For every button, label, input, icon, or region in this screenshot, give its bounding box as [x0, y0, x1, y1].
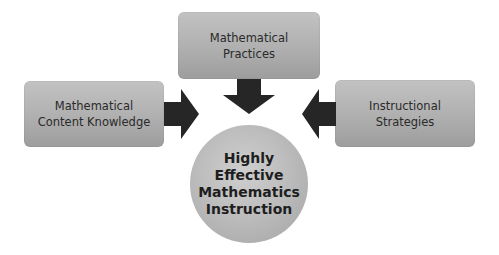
arrow-left-icon	[302, 89, 336, 139]
arrow-down-icon	[223, 79, 275, 114]
center-label-line: Highly	[224, 150, 274, 167]
center-label-line: Instruction	[206, 201, 292, 218]
box-label-line: Content Knowledge	[38, 114, 151, 130]
arrow-right-icon	[164, 89, 199, 139]
center-label-line: Effective	[215, 167, 284, 184]
box-label-line: Practices	[210, 46, 288, 62]
highly-effective-instruction-circle: Highly Effective Mathematics Instruction	[190, 125, 308, 243]
mathematical-practices-box: Mathematical Practices	[178, 12, 320, 79]
box-label-line: Mathematical	[38, 98, 151, 114]
box-label-line: Mathematical	[210, 30, 288, 46]
box-label-line: Instructional	[369, 98, 441, 114]
instructional-strategies-box: Instructional Strategies	[335, 80, 475, 147]
box-label-line: Strategies	[369, 114, 441, 130]
center-label-line: Mathematics	[198, 184, 300, 201]
content-knowledge-box: Mathematical Content Knowledge	[24, 81, 164, 147]
